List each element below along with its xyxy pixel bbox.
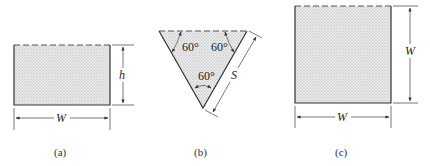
panel-a: h W (a) <box>14 45 134 159</box>
extension-line <box>205 110 218 117</box>
channel-cross-sections-figure: h W (a) 60° 60° 60° S (b) <box>0 0 430 166</box>
width-label: W <box>337 110 348 124</box>
caption-b: (b) <box>194 146 207 159</box>
caption-c: (c) <box>335 146 348 159</box>
width-label: W <box>56 111 67 125</box>
height-label: h <box>119 68 125 82</box>
square-section <box>295 6 391 103</box>
angle-label-left: 60° <box>182 40 199 54</box>
caption-a: (a) <box>54 146 67 159</box>
rectangle-section <box>14 45 110 105</box>
panel-c: W W (c) <box>295 6 418 159</box>
side-label: S <box>231 68 237 82</box>
angle-label-right: 60° <box>211 40 228 54</box>
angle-label-bottom: 60° <box>198 69 215 83</box>
panel-b: 60° 60° 60° S (b) <box>159 31 262 159</box>
extension-line <box>249 31 262 38</box>
height-label: W <box>405 44 416 58</box>
